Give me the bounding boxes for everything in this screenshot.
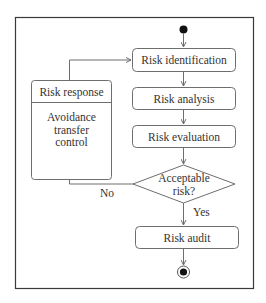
risk-evaluation-label: Risk evaluation	[148, 131, 220, 143]
no-label: No	[100, 187, 114, 199]
risk-response-label: Risk response	[39, 86, 103, 99]
decision-label-line2: risk?	[173, 185, 195, 197]
node-risk-analysis[interactable]: Risk analysis	[133, 88, 236, 110]
risk-identification-label: Risk identification	[141, 54, 227, 66]
yes-label: Yes	[193, 206, 210, 218]
node-risk-audit[interactable]: Risk audit	[136, 227, 239, 249]
risk-response-body-line3: control	[55, 136, 88, 148]
final-node-icon	[178, 266, 190, 278]
risk-response-body-line1: Avoidance	[47, 111, 96, 123]
node-risk-evaluation[interactable]: Risk evaluation	[133, 126, 236, 148]
node-risk-identification[interactable]: Risk identification	[133, 49, 236, 72]
decision-label-line1: Acceptable	[158, 172, 210, 185]
risk-audit-label: Risk audit	[164, 232, 212, 244]
risk-analysis-label: Risk analysis	[153, 93, 215, 106]
risk-management-activity-diagram: Risk identification Risk analysis Risk e…	[0, 0, 266, 303]
risk-response-body-line2: transfer	[54, 124, 89, 136]
initial-node-icon	[180, 26, 188, 34]
node-risk-response[interactable]: Risk response Avoidance transfer control	[32, 81, 112, 180]
